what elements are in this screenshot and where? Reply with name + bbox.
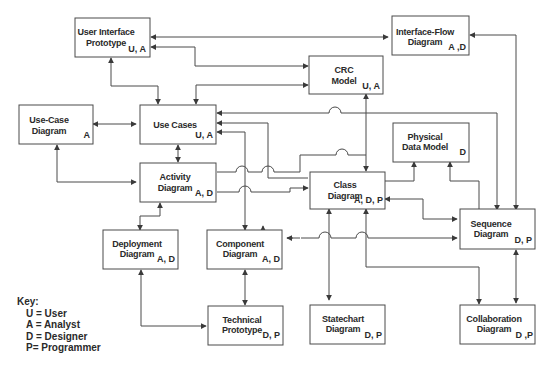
connector-activity-deployment	[140, 203, 160, 230]
connector-usecases-component	[217, 132, 245, 230]
node-title-line2: Diagram	[158, 183, 193, 193]
node-title-line1: Technical	[222, 315, 261, 325]
node-roles: D, P	[364, 330, 382, 340]
connector-sequence-physicaldata	[450, 162, 479, 210]
connector-activity-class	[217, 186, 308, 192]
node-title-line2: Diagram	[474, 229, 509, 239]
node-title-line2: Diagram	[120, 249, 155, 259]
node-title-line1: Physical	[408, 132, 443, 142]
connector-usecases-crc	[196, 85, 308, 104]
node-title-line1: Statechart	[322, 314, 364, 324]
node-physical-data-model[interactable]: Physical Data Model D	[393, 123, 469, 162]
node-ui-prototype[interactable]: User Interface Prototype U, A	[75, 18, 150, 57]
node-collaboration-diagram[interactable]: Collaboration Diagram D ,P	[460, 305, 535, 344]
node-sequence-diagram[interactable]: Sequence Diagram D, P	[460, 209, 535, 249]
node-title-line2: Prototype	[86, 38, 126, 48]
node-roles: D, P	[514, 235, 532, 245]
node-roles: A ,D	[448, 42, 466, 52]
node-roles: D, P	[262, 330, 280, 340]
node-title-line1: Component	[216, 239, 264, 249]
key-item-designer: D = Designer	[18, 331, 101, 343]
node-title-line1: Use Cases	[153, 120, 197, 130]
legend-key: Key: U = User A = Analyst D = Designer P…	[18, 296, 101, 354]
node-title-line2: Data Model	[402, 142, 448, 152]
node-title-line1: User Interface	[77, 27, 134, 37]
node-roles: A, D	[262, 254, 281, 264]
connector-ui-usecases	[111, 58, 158, 104]
node-title-line1: CRC	[335, 65, 355, 75]
node-class-diagram[interactable]: Class Diagram A, D, P	[310, 172, 385, 209]
node-title-line1: Interface-Flow	[396, 27, 455, 37]
node-interface-flow[interactable]: Interface-Flow Diagram A ,D	[392, 16, 469, 55]
node-activity-diagram[interactable]: Activity Diagram A, D	[140, 163, 216, 202]
connector-class-sequence	[385, 199, 457, 219]
node-title-line1: Deployment	[112, 239, 162, 249]
node-statechart-diagram[interactable]: Statechart Diagram D, P	[310, 305, 385, 344]
connector-deployment-technical	[141, 270, 206, 326]
node-roles: A	[84, 130, 91, 140]
connector-component-sequence	[287, 232, 457, 238]
key-item-analyst: A = Analyst	[18, 319, 101, 331]
node-title-line1: Activity	[160, 172, 191, 182]
node-use-case-diagram[interactable]: Use-Case Diagram A	[19, 105, 93, 144]
node-title-line2: Diagram	[32, 126, 67, 136]
node-component-diagram[interactable]: Component Diagram A, D	[207, 230, 282, 269]
node-roles: D ,P	[515, 330, 533, 340]
connector-usecasediagram-activity	[57, 145, 136, 182]
connectors	[57, 35, 516, 326]
node-title-line1: Collaboration	[466, 314, 521, 324]
node-title-line2: Diagram	[223, 249, 258, 259]
node-crc-model[interactable]: CRC Model U, A	[309, 56, 383, 94]
node-roles: U, A	[362, 81, 380, 91]
connector-activity-crc	[217, 149, 366, 172]
node-roles: A, D, P	[354, 195, 383, 205]
node-title-line2: Diagram	[326, 324, 361, 334]
connector-class-physicaldata	[385, 162, 414, 181]
key-item-user: U = User	[18, 308, 101, 320]
node-title-line1: Use-Case	[29, 115, 69, 125]
key-title: Key:	[17, 296, 101, 308]
node-roles: U, A	[195, 130, 213, 140]
node-title-line1: Class	[333, 180, 356, 190]
node-title-line2: Prototype	[222, 325, 262, 335]
connector-interfaceflow-sequence	[470, 35, 516, 210]
connector-ui-crc	[151, 47, 308, 66]
node-roles: U, A	[128, 44, 146, 54]
node-title-line2: Diagram	[477, 324, 512, 334]
node-roles: A, D	[157, 254, 176, 264]
node-title-line1: Sequence	[471, 219, 512, 229]
node-title-line2: Diagram	[408, 37, 443, 47]
node-technical-prototype[interactable]: Technical Prototype D, P	[208, 306, 283, 345]
node-roles: D	[460, 147, 467, 157]
node-deployment-diagram[interactable]: Deployment Diagram A, D	[103, 230, 178, 269]
node-use-cases[interactable]: Use Cases U, A	[140, 105, 216, 144]
key-item-programmer: P= Programmer	[18, 342, 101, 354]
node-title-line2: Model	[332, 76, 357, 86]
node-roles: A, D	[195, 188, 214, 198]
